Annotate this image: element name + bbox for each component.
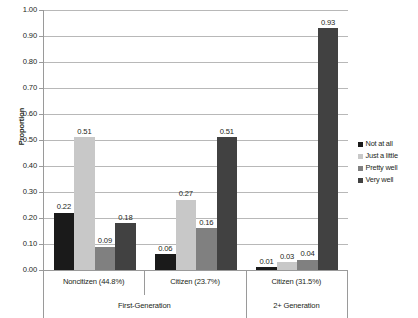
bar	[176, 200, 197, 270]
y-tick-label: 0.60	[1, 110, 37, 118]
axis-separator	[347, 271, 348, 318]
category-cell: Citizen (31.5%)	[246, 271, 347, 295]
bar	[217, 137, 238, 270]
legend-label: Not at all	[366, 140, 393, 148]
category-cell: Noncitizen (44.8%)	[43, 271, 144, 295]
category-axis: Noncitizen (44.8%)Citizen (23.7%)Citizen…	[43, 271, 348, 318]
legend-item[interactable]: Pretty well	[358, 162, 418, 174]
y-tick-label: 0.90	[1, 32, 37, 40]
bar-value-label: 0.18	[109, 213, 142, 222]
category-label: Citizen (23.7%)	[144, 277, 245, 286]
axis-separator	[43, 271, 44, 318]
legend-label: Pretty well	[366, 164, 398, 172]
y-tick-label: 0.30	[1, 188, 37, 196]
bar-value-label: 0.51	[68, 127, 101, 136]
bar	[256, 267, 277, 270]
axis-separator	[144, 271, 145, 295]
category-label: Citizen (31.5%)	[246, 277, 347, 286]
generation-group-label: First-Generation	[43, 301, 246, 310]
y-tick-label: 0.50	[1, 136, 37, 144]
category-label: Noncitizen (44.8%)	[43, 277, 144, 286]
y-tick-label: 0.70	[1, 84, 37, 92]
legend: Not at allJust a littlePretty wellVery w…	[358, 138, 418, 186]
bar	[54, 213, 75, 270]
bar	[74, 137, 95, 270]
y-tick-label: 0.80	[1, 58, 37, 66]
bar	[95, 247, 116, 270]
generation-group-cell: First-Generation	[43, 295, 246, 318]
y-tick-label: 0.00	[1, 266, 37, 274]
bar	[297, 260, 318, 270]
bar	[277, 262, 298, 270]
legend-label: Very well	[366, 176, 394, 184]
plot-area: 0.220.510.090.180.060.270.160.510.010.03…	[43, 10, 348, 271]
category-cell: Citizen (23.7%)	[144, 271, 245, 295]
legend-item[interactable]: Not at all	[358, 138, 418, 150]
bar	[115, 223, 136, 270]
bar	[318, 28, 339, 270]
legend-swatch-icon	[358, 178, 363, 183]
legend-swatch-icon	[358, 154, 363, 159]
legend-label: Just a little	[366, 152, 398, 160]
y-tick-label: 1.00	[1, 6, 37, 14]
bar-value-label: 0.27	[170, 189, 203, 198]
bar-value-label: 0.93	[312, 18, 345, 27]
bar-value-label: 0.51	[211, 127, 244, 136]
y-tick-label: 0.10	[1, 240, 37, 248]
bar	[196, 228, 217, 270]
legend-item[interactable]: Just a little	[358, 150, 418, 162]
bars-layer: 0.220.510.090.180.060.270.160.510.010.03…	[44, 10, 348, 270]
legend-item[interactable]: Very well	[358, 174, 418, 186]
legend-swatch-icon	[358, 142, 363, 147]
legend-swatch-icon	[358, 166, 363, 171]
y-tick-label: 0.40	[1, 162, 37, 170]
axis-separator	[246, 271, 247, 318]
y-axis-tick-labels: 0.000.100.200.300.400.500.600.700.800.90…	[0, 0, 40, 318]
generation-group-cell: 2+ Generation	[246, 295, 347, 318]
y-tick-label: 0.20	[1, 214, 37, 222]
generation-group-label: 2+ Generation	[246, 301, 347, 310]
bar	[155, 254, 176, 270]
